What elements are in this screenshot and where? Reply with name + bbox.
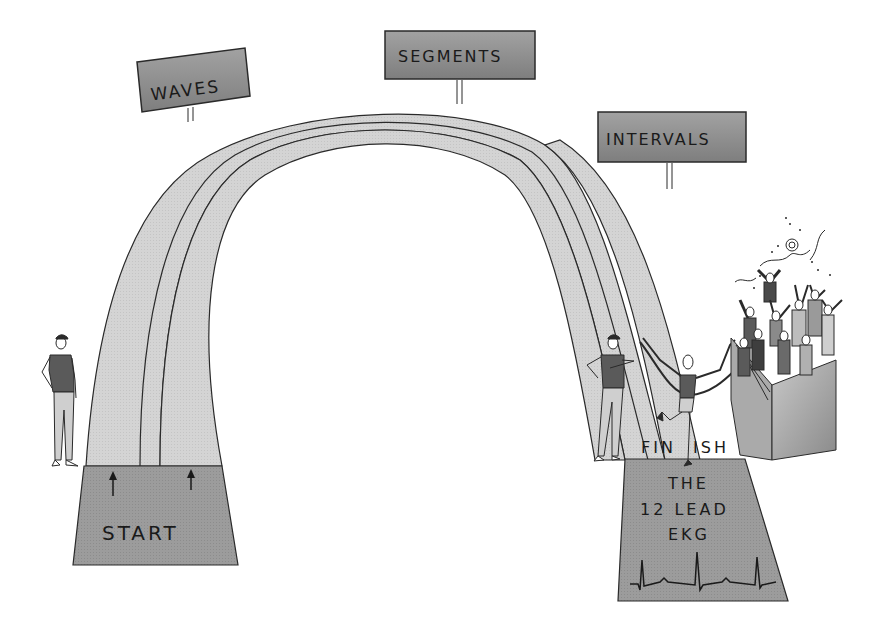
finish-label-left: FIN xyxy=(641,438,676,457)
finish-pad: THE 12 LEAD EKG xyxy=(618,459,788,601)
cheering-crowd xyxy=(735,217,842,376)
sign-waves: WAVES xyxy=(137,48,250,122)
start-pad: START xyxy=(73,466,238,565)
finish-pad-line1: THE xyxy=(667,474,709,493)
sign-segments: SEGMENTS xyxy=(385,31,535,104)
sign-intervals-label: INTERVALS xyxy=(606,130,711,149)
finish-pad-line3: EKG xyxy=(668,525,710,544)
finish-pad-line2: 12 LEAD xyxy=(640,500,729,519)
start-official-figure xyxy=(42,335,78,466)
ekg-race-track-illustration: WAVES SEGMENTS INTERVALS START THE 12 LE… xyxy=(0,0,878,634)
sign-segments-label: SEGMENTS xyxy=(398,47,502,66)
finish-label-right: ISH xyxy=(693,438,729,457)
start-label: START xyxy=(102,521,179,545)
sign-intervals: INTERVALS xyxy=(598,112,746,189)
